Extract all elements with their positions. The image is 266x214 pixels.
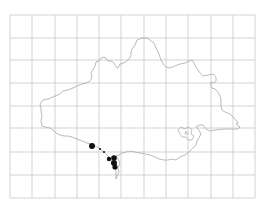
record-dot (111, 155, 117, 161)
record-dots (89, 143, 118, 170)
distribution-map (0, 0, 266, 214)
record-dot (103, 151, 105, 153)
record-dot (107, 157, 111, 161)
record-dot (112, 164, 117, 169)
record-dot (89, 143, 95, 149)
region-outline (40, 38, 240, 179)
harbour-outline (178, 127, 194, 140)
record-dot (99, 148, 101, 150)
grid-lines (10, 15, 255, 198)
